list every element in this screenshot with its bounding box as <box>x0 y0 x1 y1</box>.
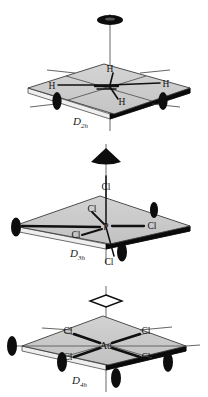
c2-axis-symbol-upper-right <box>150 202 158 218</box>
c2-axis-symbol-front-right <box>163 352 173 372</box>
ligand-label-h-bottom: H <box>119 97 126 107</box>
c2-axis-symbol-principal <box>97 15 123 25</box>
ligand-label-h-right: H <box>163 79 170 89</box>
figure-panel-d3h: P Cl Cl Cl Cl Cl D3h <box>0 134 208 266</box>
ligand-label-cl-eq-lower-left: Cl <box>72 230 81 240</box>
figure-panel-d2h: H H H H D2h <box>0 0 208 134</box>
d3h-diagram: P Cl Cl Cl Cl Cl D3h <box>0 134 208 266</box>
d2h-diagram: H H H H D2h <box>0 0 208 134</box>
c2-axis-symbol-front-left <box>57 352 67 372</box>
axis-stub-right <box>140 70 170 73</box>
c2-axis-symbol-left <box>7 336 17 356</box>
c4-axis-symbol-principal <box>90 295 122 307</box>
ligand-label-cl-lower-right: Cl <box>142 352 151 362</box>
point-group-label-d2h: D2h <box>72 115 88 130</box>
center-atom-label-p: P <box>103 222 108 232</box>
axis-stub-right <box>186 345 200 346</box>
ligand-label-cl-axial-bottom: Cl <box>105 257 114 266</box>
d4h-diagram: Au Cl Cl Cl Cl D4h <box>0 266 208 397</box>
axis-stub-left <box>47 70 75 73</box>
ligand-label-cl-axial-top: Cl <box>102 182 111 192</box>
axis-stub-lower-left <box>30 104 56 107</box>
ligand-label-h-left: H <box>49 81 56 91</box>
point-group-label-d3h: D3h <box>69 247 85 262</box>
center-atom-label-au: Au <box>100 341 112 351</box>
c2-axis-symbol-front <box>111 368 121 388</box>
figure-panel-d4h: Au Cl Cl Cl Cl D4h <box>0 266 208 397</box>
ligand-label-h-top: H <box>107 64 114 74</box>
ligand-label-cl-upper-right: Cl <box>142 326 151 336</box>
point-group-label-d4h: D4h <box>71 374 87 389</box>
c3-axis-symbol-principal <box>91 148 121 165</box>
c2-axis-symbol-left <box>52 92 61 110</box>
ligand-label-cl-eq-right: Cl <box>148 221 157 231</box>
c2-axis-symbol-front <box>117 243 127 262</box>
c2-axis-symbol-right <box>158 92 167 110</box>
ligand-label-cl-upper-left: Cl <box>64 326 73 336</box>
c2-axis-symbol-left <box>11 218 21 237</box>
ligand-label-cl-eq-upper: Cl <box>88 204 97 214</box>
